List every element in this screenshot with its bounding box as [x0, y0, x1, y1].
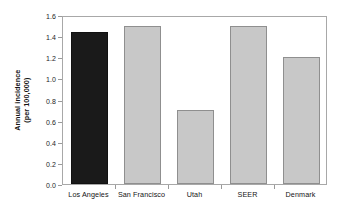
- y-axis-tick-mark: [58, 185, 62, 186]
- x-axis-category-label: Utah: [187, 190, 203, 199]
- bar-los-angeles: [71, 32, 108, 184]
- bar-seer: [230, 26, 267, 184]
- bar-denmark: [283, 57, 320, 184]
- x-axis-category-label: San Francisco: [118, 190, 165, 199]
- y-axis-tick-label: 0.4: [34, 139, 56, 146]
- y-axis-tick-label: 0.6: [34, 118, 56, 125]
- y-axis-tick-label: 1.0: [34, 76, 56, 83]
- y-axis-tick-label: 0.0: [34, 182, 56, 189]
- x-axis-tick-mark: [274, 185, 275, 189]
- y-axis-tick-label: 1.2: [34, 55, 56, 62]
- x-axis-tick-mark: [168, 185, 169, 189]
- y-axis-title-line-2: (per 100,000): [23, 78, 32, 123]
- y-axis-tick-label: 1.6: [34, 13, 56, 20]
- y-axis-tick-label: 1.4: [34, 34, 56, 41]
- y-axis-tick-label: 0.2: [34, 160, 56, 167]
- x-axis-tick-mark: [115, 185, 116, 189]
- y-axis-title: Annual incidence (per 100,000): [10, 16, 36, 185]
- chart-screenshot: Annual incidence (per 100,000) 1.61.41.2…: [0, 0, 344, 207]
- x-axis-category-label: Los Angeles: [68, 190, 108, 199]
- x-axis-tick-mark: [221, 185, 222, 189]
- x-axis-category-label: SEER: [238, 190, 258, 199]
- bar-san-francisco: [124, 26, 161, 184]
- bar-utah: [177, 110, 214, 184]
- plot-area: [62, 16, 327, 185]
- y-axis-tick-label: 0.8: [34, 97, 56, 104]
- x-axis-category-label: Denmark: [286, 190, 316, 199]
- y-axis-title-line-1: Annual incidence: [14, 70, 23, 131]
